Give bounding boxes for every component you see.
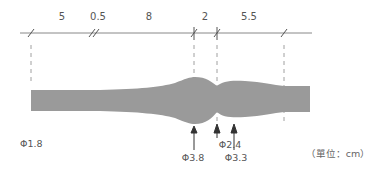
- segment-label-5: 5.5: [241, 11, 257, 22]
- arrowhead-3: [231, 124, 237, 133]
- diameter-label-right: Φ3.3: [225, 152, 248, 163]
- diameter-label-max: Φ3.8: [182, 152, 205, 163]
- segment-label-1: 5: [59, 11, 65, 22]
- diameter-label-left: Φ1.8: [20, 138, 43, 149]
- profile-shape: [31, 77, 310, 124]
- segment-label-3: 8: [146, 11, 152, 22]
- unit-note: （單位：cm）: [306, 148, 370, 159]
- diagram-canvas: 5 0.5 8 2 5.5 Φ1.8 Φ3.8 Φ2.4 Φ3.3 （單位：cm…: [0, 0, 389, 172]
- diameter-label-neck: Φ2.4: [219, 139, 242, 150]
- arrowhead-1: [191, 126, 197, 133]
- segment-label-2: 0.5: [90, 11, 106, 22]
- segment-label-4: 2: [202, 11, 208, 22]
- arrowhead-2: [214, 124, 220, 133]
